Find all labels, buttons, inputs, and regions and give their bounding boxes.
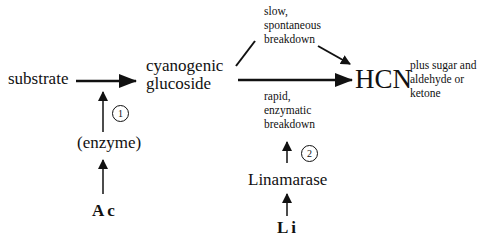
arrows-layer [0, 0, 484, 240]
rapid-breakdown-label: rapid, enzymatic breakdown [264, 89, 315, 131]
cyanogenic-glucoside-label-line2: glucoside [146, 75, 211, 92]
step-2-badge: 2 [301, 145, 318, 162]
slow-path-arrow [318, 46, 350, 64]
slow-breakdown-label: slow, spontaneous breakdown [264, 4, 321, 46]
linamarase-label: Linamarase [248, 171, 327, 188]
substrate-label: substrate [8, 70, 68, 87]
cyanogenic-glucoside-label-line1: cyanogenic [146, 57, 223, 74]
ac-gene-label: Ac [92, 202, 118, 219]
slow-path-line [236, 41, 255, 66]
byproducts-label: plus sugar and aldehyde or ketone [410, 58, 476, 100]
enzyme-label: (enzyme) [77, 134, 141, 151]
li-gene-label: Li [277, 219, 299, 236]
hcn-label: HCN [355, 66, 412, 93]
step-1-badge: 1 [112, 105, 129, 122]
